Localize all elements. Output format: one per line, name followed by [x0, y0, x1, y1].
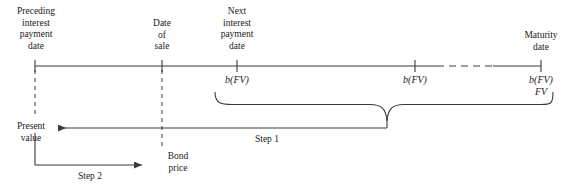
bond-price-timeline-diagram: Preceding interest payment date Date of …	[0, 0, 570, 191]
label-preceding-interest-payment-date: Preceding interest payment date	[5, 6, 67, 52]
cashflow-brace	[215, 92, 553, 121]
label-next-interest-payment-date: Next interest payment date	[207, 6, 267, 52]
label-maturity-date: Maturity date	[511, 30, 570, 53]
label-step-1: Step 1	[238, 134, 296, 146]
cashflow-maturity: b(FV) FV	[514, 74, 568, 97]
diagram-canvas	[0, 0, 570, 191]
label-present-value: Present value	[3, 121, 59, 144]
cashflow-next-interest-payment: b(FV)	[210, 74, 264, 86]
label-date-of-sale: Date of sale	[133, 18, 191, 53]
label-bond-price: Bond price	[152, 151, 204, 174]
label-step-2: Step 2	[61, 171, 119, 183]
cashflow-intermediate-coupon: b(FV)	[388, 74, 442, 86]
